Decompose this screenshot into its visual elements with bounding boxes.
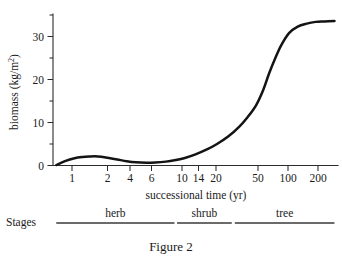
y-tick-label-10: 10 [33, 117, 45, 129]
x-axis-tick-labels: 1 2 4 6 10 14 20 50 100 200 [69, 172, 327, 184]
svg-text:biomass (kg/m2): biomass (kg/m2) [7, 54, 21, 130]
x-tick-label-6: 6 [149, 172, 155, 184]
stage-name-shrub: shrub [192, 207, 218, 219]
x-tick-label-4: 4 [127, 172, 133, 184]
y-axis-title-tail: ) [8, 54, 21, 58]
y-axis-title-main: biomass (kg/m [8, 62, 21, 130]
x-tick-label-14: 14 [193, 172, 205, 184]
x-tick-label-1: 1 [69, 172, 75, 184]
chart-background [0, 0, 342, 258]
x-tick-label-50: 50 [252, 172, 264, 184]
biomass-succession-chart: 0 10 20 30 biomass (kg/m2) 1 2 [0, 0, 342, 258]
y-axis-title: biomass (kg/m2) [7, 54, 21, 130]
x-tick-label-2: 2 [105, 172, 111, 184]
x-tick-label-200: 200 [309, 172, 327, 184]
x-tick-label-10: 10 [176, 172, 188, 184]
x-tick-label-100: 100 [279, 172, 297, 184]
y-tick-label-30: 30 [33, 31, 45, 43]
figure-caption: Figure 2 [149, 239, 193, 254]
stages-label: Stages [6, 216, 37, 229]
x-axis-title: successional time (yr) [146, 189, 247, 202]
y-tick-label-0: 0 [38, 160, 44, 172]
stage-name-herb: herb [105, 207, 126, 219]
figure-container: 0 10 20 30 biomass (kg/m2) 1 2 [0, 0, 342, 258]
stage-name-tree: tree [276, 207, 293, 219]
y-tick-label-20: 20 [33, 74, 45, 86]
x-tick-label-20: 20 [210, 172, 222, 184]
